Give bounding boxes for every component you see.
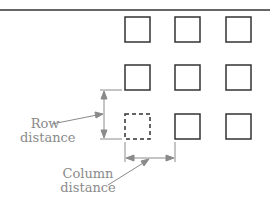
grid-cells [125, 17, 251, 139]
cell-r3c3 [226, 114, 251, 139]
column-distance-label: Column distance [58, 167, 118, 195]
cell-r2c3 [226, 65, 251, 90]
column-distance-label-line2: distance [58, 181, 118, 195]
cell-r1c3 [226, 17, 251, 42]
column-distance-label-line1: Column [58, 167, 118, 181]
cell-r3c1-dashed [125, 114, 150, 139]
row-distance-label-line2: distance [20, 131, 70, 145]
column-distance-dimension [108, 142, 175, 185]
cell-r3c2 [175, 114, 200, 139]
cell-r2c2 [175, 65, 200, 90]
cell-r1c2 [175, 17, 200, 42]
cell-r1c1 [125, 17, 150, 42]
cell-r2c1 [125, 65, 150, 90]
grid-diagram [0, 0, 270, 203]
row-distance-label-line1: Row [20, 117, 70, 131]
row-distance-label: Row distance [20, 117, 70, 145]
